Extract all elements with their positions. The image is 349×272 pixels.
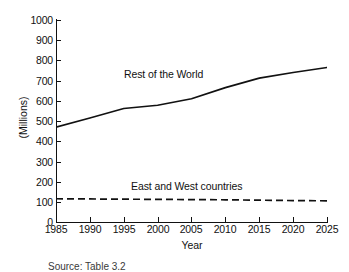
source-caption: Source: Table 3.2 — [48, 261, 126, 272]
x-tick-label-2025: 2025 — [307, 224, 347, 235]
y-axis-title: (Millions) — [18, 76, 29, 160]
line-east-and-west-countries — [56, 199, 327, 201]
series-label-rest-of-the-world: Rest of the World — [124, 69, 203, 80]
series-label-east-and-west-countries: East and West countries — [131, 181, 242, 192]
y-tick-label-900: 900 — [3, 35, 53, 46]
y-tick-label-800: 800 — [3, 55, 53, 66]
y-tick-label-1000: 1000 — [3, 15, 53, 26]
y-tick-label-200: 200 — [3, 177, 53, 188]
x-axis-title: Year — [56, 240, 328, 251]
x-tick-2025 — [327, 217, 328, 222]
y-tick-label-100: 100 — [3, 197, 53, 208]
